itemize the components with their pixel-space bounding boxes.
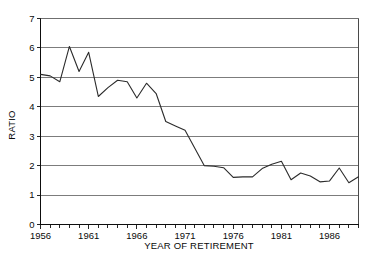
y-tick-label-4: 4 [29,101,34,112]
x-tick-label-1986: 1986 [319,230,340,241]
y-tick-label-3: 3 [29,131,34,142]
series-line-ratio [41,46,359,182]
y-tick-label-7: 7 [29,13,34,24]
line-chart-figure: 1956196119661971197619811986 01234567 YE… [0,0,373,262]
y-tick-label-6: 6 [29,42,34,53]
x-axis-title: YEAR OF RETIREMENT [144,240,254,251]
x-axis-tickmarks [41,225,359,230]
y-axis-tick-labels: 01234567 [29,13,34,230]
x-tick-label-1981: 1981 [271,230,292,241]
y-axis-title: RATIO [6,110,17,139]
x-tick-label-1956: 1956 [30,230,51,241]
y-tick-label-2: 2 [29,160,34,171]
y-tick-label-5: 5 [29,72,34,83]
y-tick-label-1: 1 [29,189,34,200]
x-tick-label-1961: 1961 [78,230,99,241]
plot-frame [41,19,359,225]
gridlines-group [41,19,359,196]
chart-canvas: 1956196119661971197619811986 01234567 YE… [0,0,373,262]
y-tick-label-0: 0 [29,219,34,230]
data-series-group [41,46,359,182]
